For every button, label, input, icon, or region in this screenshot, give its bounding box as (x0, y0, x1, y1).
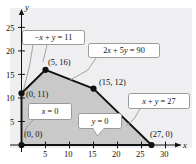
callout-5-pointer (0, 0, 196, 164)
linear-programming-figure: y x 5 10 15 20 25 30 5 10 15 20 25 (0, 0… (0, 0, 196, 164)
